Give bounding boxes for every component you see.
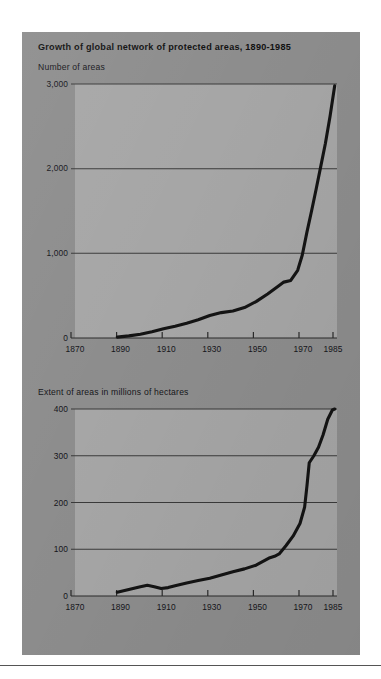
chart-upper-axis-line (71, 332, 337, 338)
x-tick-label: 1950 (248, 602, 267, 612)
chart-lower-plot-area (75, 409, 337, 596)
chart-lower-plot-svg (75, 409, 337, 596)
y-tick-label: 0 (63, 591, 68, 601)
x-tick-label: 1890 (111, 602, 130, 612)
x-tick-label: 1970 (293, 602, 312, 612)
chart-upper-plot-svg (75, 84, 337, 338)
figure-panel: Growth of global network of protected ar… (22, 32, 360, 655)
x-tick-label: 1910 (157, 602, 176, 612)
chart-number-of-areas: Number of areas 3,000 2,000 1,000 0 (22, 62, 360, 377)
y-tick-label: 3,000 (47, 79, 68, 89)
x-tick-label: 1970 (293, 344, 312, 354)
x-tick-label: 1985 (323, 602, 342, 612)
x-tick-label: 1985 (323, 344, 342, 354)
x-tick-label: 1930 (202, 344, 221, 354)
x-tick-label: 1950 (248, 344, 267, 354)
x-tick-label: 1890 (111, 344, 130, 354)
x-tick-label: 1870 (65, 602, 84, 612)
chart-upper-caption: Number of areas (38, 62, 105, 72)
x-tick-label: 1870 (65, 344, 84, 354)
chart-upper-gridlines (71, 84, 337, 253)
y-tick-label: 1,000 (47, 248, 68, 258)
footer-divider (0, 665, 381, 666)
chart-extent-of-areas: Extent of areas in millions of hectares … (22, 387, 360, 635)
chart-lower-data-line (117, 409, 334, 592)
y-tick-label: 400 (54, 404, 68, 414)
chart-lower-axis-line (71, 590, 337, 596)
y-tick-label: 2,000 (47, 163, 68, 173)
x-tick-label: 1930 (202, 602, 221, 612)
y-tick-label: 0 (63, 333, 68, 343)
chart-upper-data-line (117, 86, 334, 337)
y-tick-label: 200 (54, 498, 68, 508)
chart-upper-plot-area (75, 84, 337, 338)
chart-lower-caption: Extent of areas in millions of hectares (38, 387, 189, 397)
y-tick-label: 300 (54, 451, 68, 461)
figure-title: Growth of global network of protected ar… (38, 42, 291, 52)
y-tick-label: 100 (54, 544, 68, 554)
x-tick-label: 1910 (157, 344, 176, 354)
